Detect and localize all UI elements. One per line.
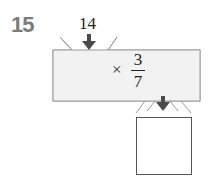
multiply-operator: × [112,60,122,80]
answer-box[interactable] [136,117,192,175]
output-funnel-left [136,101,145,113]
down-arrow-icon [82,34,96,50]
machine-box [53,50,200,101]
fraction-numerator: 3 [131,51,145,68]
funnel-left-line [60,37,72,50]
output-funnel-right [181,101,191,113]
fraction-denominator: 7 [131,73,145,90]
fraction: 3 7 [131,51,145,90]
fraction-bar [131,70,145,71]
funnel-right-line [108,37,117,50]
